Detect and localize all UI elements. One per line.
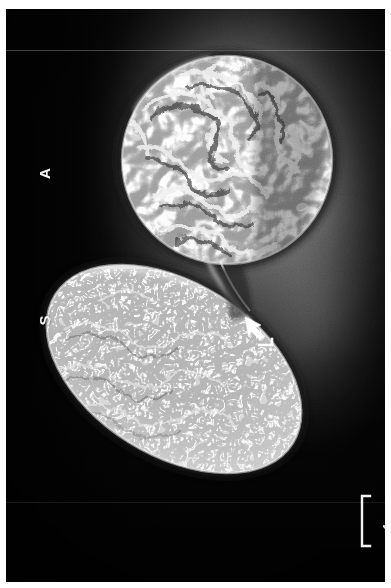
scale-bar: 1 µm: [356, 493, 385, 549]
upper-cell-a: [115, 43, 344, 279]
lower-cell-s: [6, 214, 347, 525]
scale-bar-label: 1 µm: [382, 494, 386, 540]
cell-pair: [6, 9, 385, 582]
photographic-plate: A S 1 µm: [6, 9, 385, 582]
cell-label-s: S: [37, 313, 52, 329]
cell-label-a: A: [37, 166, 52, 182]
sem-micrograph-figure: A S 1 µm: [0, 0, 391, 588]
arrow-marker: [242, 312, 282, 352]
